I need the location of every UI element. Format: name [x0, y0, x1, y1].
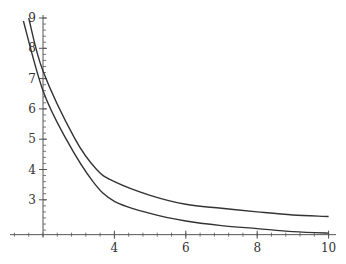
series-group [23, 18, 328, 233]
y-tick-label: 5 [28, 132, 36, 146]
x-tick-label: 6 [182, 241, 190, 255]
x-tick-label: 4 [111, 241, 119, 255]
y-tick-label: 4 [28, 163, 36, 177]
y-tick-label: 6 [28, 102, 36, 116]
line-chart: 468103456789 [0, 0, 346, 264]
y-tick-label: 3 [28, 193, 36, 207]
x-tick-label: 10 [321, 241, 336, 255]
y-tick-label: 7 [28, 72, 36, 86]
upper-curve [29, 18, 329, 217]
x-tick-label: 8 [253, 241, 261, 255]
